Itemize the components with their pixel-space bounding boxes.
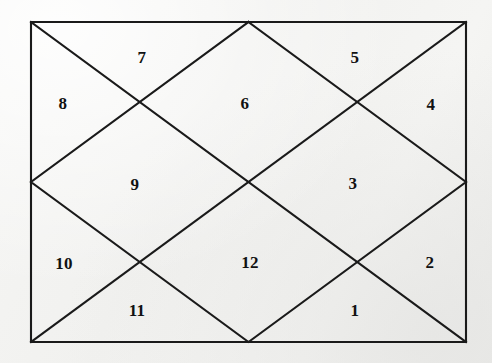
house-label-5: 5 xyxy=(351,49,360,66)
house-label-1: 1 xyxy=(351,302,360,319)
house-label-12: 12 xyxy=(241,254,259,271)
house-label-7: 7 xyxy=(138,49,147,66)
house-label-9: 9 xyxy=(131,176,140,193)
house-label-2: 2 xyxy=(426,254,435,271)
kundli-chart-svg xyxy=(0,0,492,363)
house-label-11: 11 xyxy=(129,302,146,319)
house-label-10: 10 xyxy=(55,255,73,272)
chart-lines-group xyxy=(31,22,466,342)
house-label-8: 8 xyxy=(59,95,68,112)
house-label-4: 4 xyxy=(427,96,436,113)
kundli-chart-container: 1 2 3 4 5 6 7 8 9 10 11 12 xyxy=(0,0,492,363)
house-label-6: 6 xyxy=(241,95,250,112)
house-label-3: 3 xyxy=(349,175,358,192)
